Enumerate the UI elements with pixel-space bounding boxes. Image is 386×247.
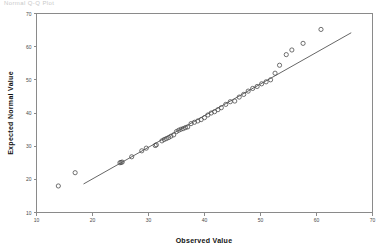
- x-tick-label: 30: [146, 217, 152, 223]
- x-tick-label: 60: [314, 217, 320, 223]
- data-point: [56, 184, 60, 188]
- data-points-group: [56, 27, 323, 188]
- y-axis-title: Expected Normal Value: [7, 71, 15, 155]
- x-axis-title: Observed Value: [176, 237, 233, 244]
- x-tick-label: 70: [370, 217, 376, 223]
- x-tick-label: 10: [34, 217, 40, 223]
- data-point: [73, 171, 77, 175]
- qq-plot-figure: Normal Q-Q Plot 10203040506070 102030405…: [0, 0, 386, 247]
- data-point: [301, 41, 305, 45]
- y-tick-label: 30: [26, 143, 32, 149]
- x-tick-label: 20: [90, 217, 96, 223]
- x-ticks-group: 10203040506070: [34, 213, 376, 223]
- y-tick-label: 70: [26, 11, 32, 17]
- data-point: [290, 48, 294, 52]
- y-tick-label: 10: [26, 210, 32, 216]
- y-tick-label: 40: [26, 110, 32, 116]
- y-ticks-group: 10203040506070: [26, 11, 37, 216]
- data-point: [233, 99, 237, 103]
- data-point: [284, 53, 288, 57]
- x-tick-label: 50: [258, 217, 264, 223]
- data-point: [277, 63, 281, 67]
- data-point: [273, 71, 277, 75]
- y-tick-label: 20: [26, 176, 32, 182]
- data-point: [319, 27, 323, 31]
- y-tick-label: 60: [26, 44, 32, 50]
- axes-group: [37, 14, 373, 213]
- x-tick-label: 40: [202, 217, 208, 223]
- plot-area: 10203040506070 10203040506070 Observed V…: [0, 0, 386, 247]
- y-tick-label: 50: [26, 77, 32, 83]
